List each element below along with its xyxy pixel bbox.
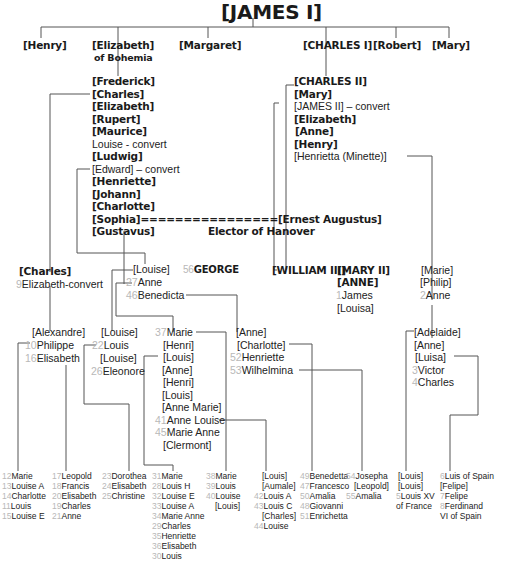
descendant-name: [Felipe] (440, 481, 468, 491)
descendant-name: [Louis] (262, 471, 287, 481)
descendant-name: [Charles] (262, 511, 296, 521)
person-louisa: [Louisa] (337, 303, 374, 314)
person-robert: [Robert] (373, 40, 421, 51)
child-elizabeth: [Elizabeth] (92, 101, 154, 112)
descendant-name: Louis H (161, 481, 190, 491)
person-clermont: [Clermont] (163, 440, 211, 451)
person-elizabeth-convert: 9Elizabeth-convert (16, 279, 103, 290)
descendant-entry: 35Henriette (152, 532, 196, 541)
child-charles: [Charles] (92, 89, 144, 100)
descendant-name: Luis of Spain (445, 471, 494, 481)
descendant-name: Enrichetta (309, 511, 347, 521)
descendant-name: Charles (161, 521, 190, 531)
descendant-name: of France (396, 501, 432, 511)
descendant-entry: [Charles] (262, 512, 296, 521)
descendant-name: VI of Spain (440, 511, 482, 521)
child-ludwig: [Ludwig] (92, 151, 143, 162)
descendant-name: Louise A (161, 501, 194, 511)
descendant-entry: 40Louise (206, 492, 241, 501)
person-luisa: [Luisa] (415, 352, 446, 363)
person-louis: [Louis] (163, 352, 194, 363)
descendant-name: Giovanni (309, 501, 343, 511)
descendant-entry: 30Louis (152, 552, 182, 561)
descendant-entry: 28Louis H (152, 482, 190, 491)
descendant-name: Amalia (309, 491, 335, 501)
child-mary: [Mary] (294, 89, 332, 100)
descendant-name: Louise E (11, 511, 44, 521)
descendant-name: Louise (263, 521, 288, 531)
person-marie: [Marie] (421, 265, 453, 276)
person-wilhelmina: 53Wilhelmina (230, 365, 293, 376)
person-henriette-52: 52Henriette (230, 352, 284, 363)
descendant-entry: 32Louise E (152, 492, 195, 501)
descendant-entry: 55Amalia (346, 492, 381, 501)
person-henri: [Henri] (163, 340, 194, 351)
child-elizabeth: [Elizabeth] (294, 114, 356, 125)
descendant-entry: 43Louis C (254, 502, 292, 511)
descendant-name: Benedetta (309, 471, 348, 481)
person-elizabeth: [Elizabeth] (92, 40, 154, 51)
person-mary-ii: [MARY II] (337, 265, 390, 276)
descendant-name: Louise A (11, 481, 44, 491)
person-anne: [Anne] (236, 327, 266, 338)
child-henrietta: [Henrietta (Minette)] (294, 151, 387, 162)
descendant-name: [Leopold] (354, 481, 389, 491)
person-marie-anne: 45Marie Anne (155, 427, 220, 438)
descendant-entry: 50Amalia (300, 492, 335, 501)
person-margaret: [Margaret] (179, 40, 241, 51)
descendant-entry: 54Josepha (346, 472, 388, 481)
person-anne-2: 2Anne (420, 290, 450, 301)
descendant-name: Henriette (161, 531, 196, 541)
descendant-name: Marie Anne (161, 511, 204, 521)
descendant-entry: 34Marie Anne (152, 512, 204, 521)
descendant-entry: 11Louis (2, 502, 31, 511)
descendant-name: Charles (61, 501, 90, 511)
descendant-entry: 13Louise A (2, 482, 44, 491)
person-henry: [Henry] (23, 40, 67, 51)
elector-of-hanover: Elector of Hanover (208, 226, 315, 237)
root-james-i: [JAMES I] (221, 2, 322, 22)
descendant-name: Louis (215, 481, 235, 491)
descendant-name: Anne (61, 511, 81, 521)
descendant-name: Charlotte (11, 491, 46, 501)
descendant-name: Louis XV (401, 491, 435, 501)
descendant-entry: [Louis] (215, 502, 240, 511)
descendant-entry: 31Marie (152, 472, 183, 481)
descendant-name: Francesco (309, 481, 349, 491)
descendant-name: Louis C (263, 501, 292, 511)
descendant-entry: of France (396, 502, 432, 511)
descendant-entry: VI of Spain (440, 512, 482, 521)
descendant-entry: 42Louis A (254, 492, 291, 501)
child-charles-ii: [CHARLES II] (294, 76, 367, 87)
child-frederick: [Frederick] (92, 76, 155, 87)
person-benedicta: 46Benedicta (126, 290, 184, 301)
descendant-entry: [Louis] (262, 472, 287, 481)
descendant-name: [Louis] (398, 481, 423, 491)
descendant-entry: 19Charles (52, 502, 91, 511)
descendant-entry: [Leopold] (354, 482, 389, 491)
descendant-entry: 29Charles (152, 522, 191, 531)
person-anne: [Anne] (414, 340, 444, 351)
descendant-name: Louis A (263, 491, 291, 501)
child-edward: [Edward] – convert (92, 164, 180, 175)
descendant-entry: 49Benedetta (300, 472, 348, 481)
person-charlotte: [Charlotte] (237, 340, 285, 351)
descendant-name: Marie (11, 471, 32, 481)
descendant-name: Felipe (445, 491, 468, 501)
descendant-name: Dorothea (111, 471, 146, 481)
descendant-name: [Aumale] (262, 481, 296, 491)
child-louise: Louise - convert (92, 139, 167, 150)
person-elisabeth-16: 16Elisabeth (25, 353, 80, 364)
child-maurice: [Maurice] (92, 126, 147, 137)
child-charlotte: [Charlotte] (92, 201, 155, 212)
descendant-entry: 39Louis (206, 482, 236, 491)
person-marie-37: 37Marie (155, 327, 193, 338)
child-rupert: [Rupert] (92, 114, 140, 125)
descendant-entry: 24Elisabeth (102, 482, 146, 491)
descendant-name: Marie (161, 471, 182, 481)
child-anne: [Anne] (295, 126, 334, 137)
descendant-name: Louis (161, 551, 181, 561)
descendant-entry: 25Christine (102, 492, 145, 501)
descendant-name: Ferdinand (445, 501, 483, 511)
descendant-entry: 12Marie (2, 472, 33, 481)
